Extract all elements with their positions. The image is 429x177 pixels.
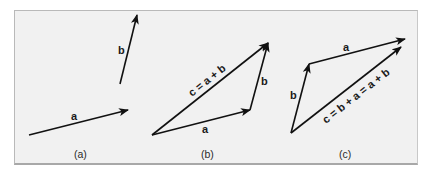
vector-a-arrow [309, 39, 405, 64]
vector-c-arrow [152, 43, 268, 135]
vector-a-arrow [29, 110, 128, 135]
caption-a: (a) [74, 148, 87, 160]
vector-c-arrow [291, 47, 401, 133]
caption-c: (c) [339, 148, 351, 160]
vector-b-label: b [261, 75, 268, 87]
panel-b: a b c = a + b (b) [152, 43, 268, 160]
vector-c-label: c = b + a = a + b [320, 66, 392, 126]
panel-a: a b (a) [29, 15, 137, 160]
caption-b: (b) [201, 148, 214, 160]
vector-b-label: b [118, 44, 125, 56]
vector-b-label: b [290, 89, 297, 101]
vector-a-label: a [202, 123, 209, 135]
vector-a-label: a [343, 41, 350, 53]
vector-a-label: a [71, 110, 78, 122]
panel-c: b a c = b + a = a + b (c) [290, 39, 405, 160]
vector-addition-diagram: a b (a) a b c = a + b (b) b a c = b + a … [0, 0, 429, 177]
